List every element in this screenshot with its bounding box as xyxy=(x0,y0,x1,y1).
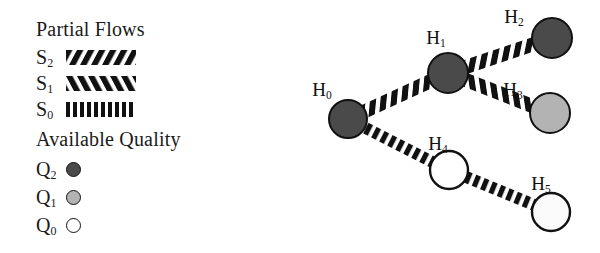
legend-label-s1: S1 xyxy=(36,72,66,95)
legend-label-q1: Q1 xyxy=(36,186,66,209)
graph-node-label-h3: H3 xyxy=(503,79,522,101)
graph-node-h4[interactable] xyxy=(430,151,468,189)
diagram-root: Partial Flows S2 S1 xyxy=(0,0,600,253)
graph-node-h5[interactable] xyxy=(532,193,570,231)
graph-node-label-h5: H5 xyxy=(531,173,550,195)
graph-node-label-h1: H1 xyxy=(426,27,445,49)
legend-row-q0: Q0 xyxy=(36,214,81,237)
graph-panel: H0 H1 H2 H3 H4 H5 xyxy=(260,0,600,253)
graph-node-h2[interactable] xyxy=(532,18,572,58)
legend-label-q0: Q0 xyxy=(36,214,66,237)
legend-row-s1: S1 xyxy=(36,72,136,95)
legend-dot-q1 xyxy=(66,190,81,205)
graph-node-h0[interactable] xyxy=(329,100,367,138)
legend-dot-q2 xyxy=(66,162,81,177)
legend-row-q2: Q2 xyxy=(36,158,81,181)
legend-row-q1: Q1 xyxy=(36,186,81,209)
legend-title-available-quality: Available Quality xyxy=(36,128,181,151)
legend-swatch-s0 xyxy=(66,102,136,117)
graph-node-label-h2: H2 xyxy=(504,6,523,28)
graph-node-h1[interactable] xyxy=(428,53,468,93)
legend-label-s0: S0 xyxy=(36,98,66,121)
graph-node-h3[interactable] xyxy=(530,93,570,133)
legend-swatch-s2 xyxy=(66,50,136,65)
legend-row-s0: S0 xyxy=(36,98,136,121)
legend-dot-q0 xyxy=(66,218,81,233)
legend-label-q2: Q2 xyxy=(36,158,66,181)
legend-row-s2: S2 xyxy=(36,46,136,69)
legend-swatch-s1 xyxy=(66,76,136,91)
graph-node-label-h4: H4 xyxy=(428,133,447,155)
graph-node-label-h0: H0 xyxy=(312,79,331,101)
legend-panel: Partial Flows S2 S1 xyxy=(0,0,260,253)
legend-title-partial-flows: Partial Flows xyxy=(36,18,145,41)
legend-label-s2: S2 xyxy=(36,46,66,69)
